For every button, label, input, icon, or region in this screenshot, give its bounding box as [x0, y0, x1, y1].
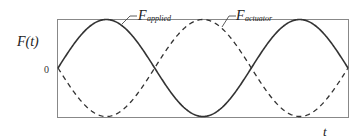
- chart: F applied F actuator F(t) 0 t: [0, 0, 363, 140]
- plot-frame: [58, 20, 349, 118]
- x-axis-label: t: [323, 124, 327, 139]
- series-actuator-line: [58, 20, 348, 117]
- y-tick-zero: 0: [44, 64, 49, 75]
- actuator-label-main: F: [235, 8, 245, 23]
- actuator-label-sub: actuator: [245, 14, 273, 23]
- actuator-leader-line: [222, 16, 236, 27]
- y-axis-label: F(t): [16, 34, 39, 50]
- applied-label-sub: applied: [147, 14, 172, 23]
- applied-label-main: F: [137, 8, 147, 23]
- series-applied-line: [58, 20, 348, 117]
